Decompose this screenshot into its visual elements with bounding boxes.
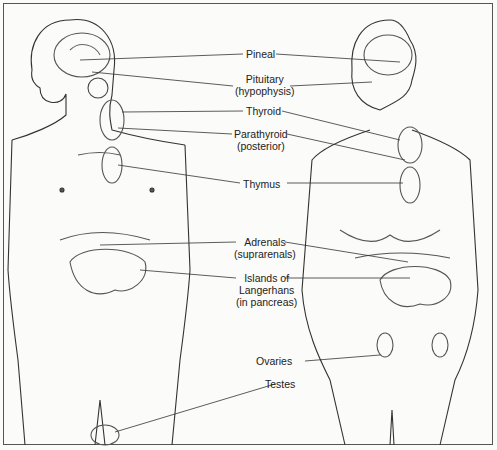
label-islands-of-langerhans: Islands of Langerhans (in pancreas) (236, 272, 297, 308)
male-figure (8, 20, 190, 445)
label-islands-line1: Islands of (236, 272, 297, 284)
label-parathyroid: Parathyroid (posterior) (234, 128, 288, 152)
label-thyroid: Thyroid (246, 105, 281, 117)
endocrine-diagram: Pineal Pituitary (hypophysis) Thyroid Pa… (0, 0, 497, 450)
label-adrenals-name: Adrenals (234, 236, 296, 248)
label-parathyroid-sub: (posterior) (234, 140, 288, 152)
label-pineal: Pineal (246, 48, 275, 60)
label-pituitary-name: Pituitary (235, 73, 295, 85)
label-adrenals-sub: (suprarenals) (234, 248, 296, 260)
label-pituitary: Pituitary (hypophysis) (235, 73, 295, 97)
label-islands-line2: Langerhans (236, 284, 297, 296)
body-outlines (0, 0, 497, 450)
label-adrenals: Adrenals (suprarenals) (234, 236, 296, 260)
label-pituitary-sub: (hypophysis) (235, 85, 295, 97)
label-thymus: Thymus (243, 178, 280, 190)
label-testes: Testes (265, 378, 295, 390)
label-parathyroid-name: Parathyroid (234, 128, 288, 140)
label-ovaries: Ovaries (256, 355, 292, 367)
label-islands-line3: (in pancreas) (236, 296, 297, 308)
